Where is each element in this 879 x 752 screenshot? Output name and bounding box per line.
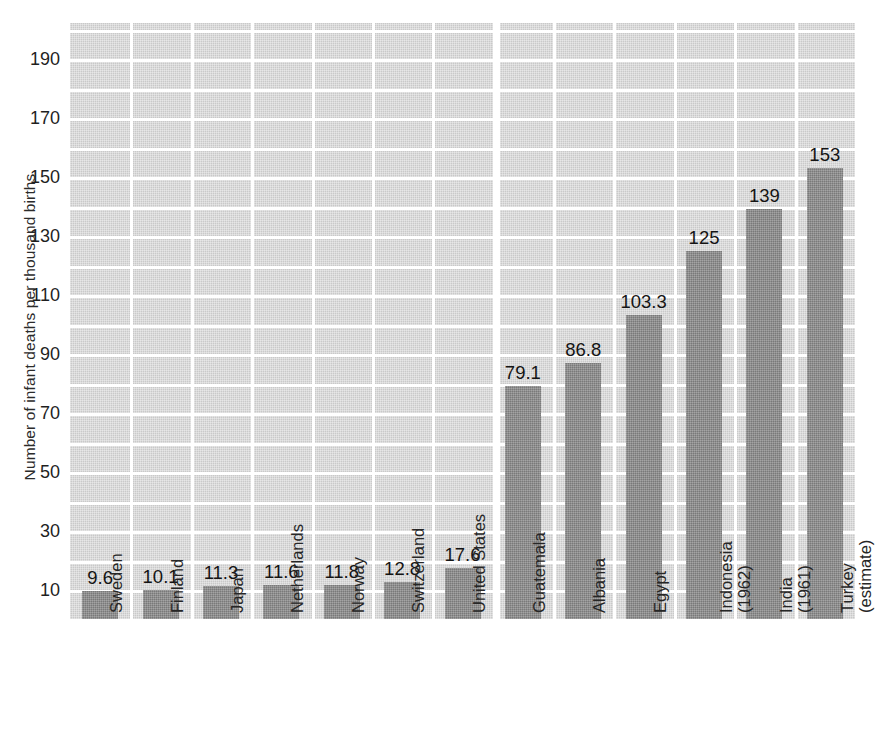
gridline-horizontal — [70, 177, 855, 180]
y-axis-tick-130: 130 — [30, 226, 60, 247]
y-axis-tick-labels: 1030507090110130150170190 — [0, 0, 68, 752]
gridline-vertical — [734, 23, 737, 619]
value-label-albania: 86.8 — [565, 339, 601, 361]
x-axis-label-text: Sweden — [107, 553, 125, 619]
x-axis-label-finland: Finland — [168, 619, 228, 637]
gridline-vertical — [553, 23, 556, 619]
x-axis-label-text: Albania — [590, 558, 608, 619]
gridline-horizontal — [70, 413, 855, 416]
value-label-indonesia-1962: 125 — [689, 227, 720, 249]
gridline-horizontal — [70, 236, 855, 239]
y-axis-tick-90: 90 — [40, 344, 60, 365]
gridline-horizontal — [70, 207, 855, 210]
value-label-guatemala: 79.1 — [505, 362, 541, 384]
x-axis-label-text: Indonesia — [717, 541, 735, 613]
gridline-vertical — [795, 23, 798, 619]
gridline-horizontal — [70, 266, 855, 269]
y-axis-tick-70: 70 — [40, 403, 60, 424]
x-axis-label-india-1961: India(1961) — [777, 619, 831, 656]
gridline-vertical — [674, 23, 677, 619]
value-label-egypt: 103.3 — [620, 291, 666, 313]
x-axis-label-text: Egypt — [651, 571, 669, 619]
gridline-horizontal — [70, 384, 855, 387]
gridline-vertical — [493, 23, 500, 619]
plot-area: 9.610.111.311.611.812.817.679.186.8103.3… — [70, 23, 855, 619]
gridline-vertical — [432, 23, 435, 619]
x-axis-label-text: United States — [470, 514, 488, 619]
x-axis-label-text: Finland — [168, 559, 186, 619]
gridline-horizontal — [70, 531, 855, 534]
gridline-horizontal — [70, 295, 855, 298]
x-axis-label-norway: Norway — [349, 619, 411, 637]
gridline-horizontal — [70, 30, 855, 33]
gridline-horizontal — [70, 89, 855, 92]
gridline-vertical — [372, 23, 375, 619]
value-label-india-1961: 139 — [749, 185, 780, 207]
x-axis-label-text: Turkey — [838, 540, 856, 613]
x-axis-label-text: Norway — [349, 557, 367, 619]
x-axis-label-egypt: Egypt — [651, 619, 699, 637]
y-axis-tick-50: 50 — [40, 462, 60, 483]
gridline-horizontal — [70, 148, 855, 151]
y-axis-tick-30: 30 — [40, 521, 60, 542]
x-axis-label-text: (1961) — [796, 565, 814, 613]
gridline-vertical — [191, 23, 194, 619]
gridline-vertical — [251, 23, 254, 619]
x-axis-label-text: Netherlands — [288, 524, 306, 619]
gridline-horizontal — [70, 354, 855, 357]
gridline-horizontal — [70, 472, 855, 475]
x-axis-label-turkey-estimate: Turkey(estimate) — [838, 619, 879, 656]
x-axis-label-text: Switzerland — [409, 528, 427, 619]
gridline-horizontal — [70, 443, 855, 446]
value-label-turkey-estimate: 153 — [809, 144, 840, 166]
x-axis-label-text: India — [777, 565, 795, 613]
x-axis-label-text: (1962) — [736, 541, 754, 613]
gridline-vertical — [312, 23, 315, 619]
y-axis-tick-110: 110 — [31, 285, 60, 306]
x-axis-label-sweden: Sweden — [107, 619, 173, 637]
gridline-horizontal — [70, 118, 855, 121]
gridline-horizontal — [70, 502, 855, 505]
x-axis-category-labels: SwedenFinlandJapanNetherlandsNorwaySwitz… — [70, 619, 855, 752]
x-axis-label-albania: Albania — [590, 619, 651, 637]
gridline-horizontal — [70, 59, 855, 62]
x-axis-label-text: (estimate) — [856, 540, 874, 613]
y-axis-tick-170: 170 — [30, 108, 60, 129]
gridline-vertical — [613, 23, 616, 619]
gridline-vertical — [130, 23, 133, 619]
gridline-horizontal — [70, 325, 855, 328]
y-axis-tick-10: 10 — [40, 580, 60, 601]
x-axis-label-text: Guatemala — [530, 532, 548, 619]
x-axis-label-text: Japan — [228, 568, 246, 619]
y-axis-tick-190: 190 — [30, 49, 60, 70]
y-axis-tick-150: 150 — [30, 167, 60, 188]
x-axis-label-japan: Japan — [228, 619, 279, 637]
